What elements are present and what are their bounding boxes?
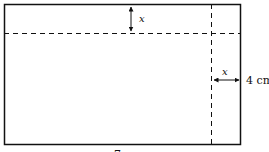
outer-rectangle (5, 5, 241, 145)
right-dimension-label: 4 cm (246, 74, 269, 87)
bottom-label: 7 (114, 148, 121, 152)
top-x-label: x (139, 13, 145, 24)
right-x-label: x (222, 66, 228, 77)
diagram-canvas: x x 4 cm 7 (0, 0, 269, 152)
